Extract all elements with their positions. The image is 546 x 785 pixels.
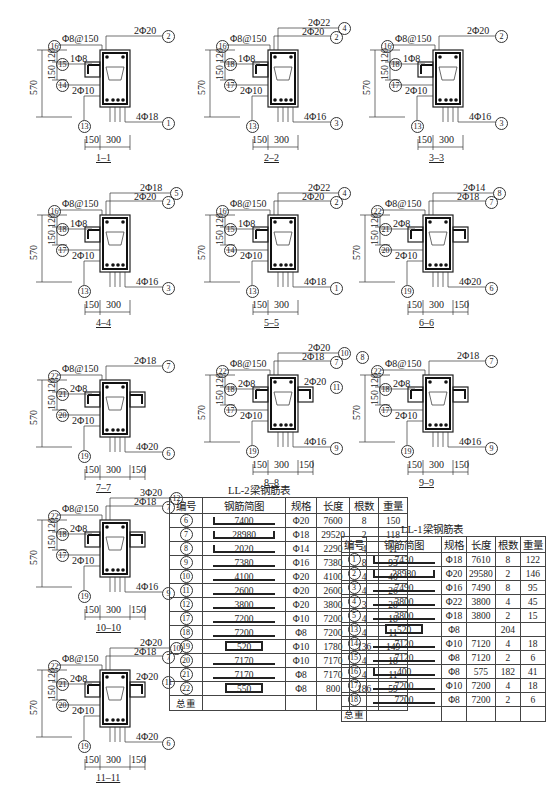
width-dimension: 300 xyxy=(106,300,121,310)
cell-count: 182 xyxy=(495,665,520,679)
section-8-8: 2Φ20102Φ18782Φ2011Φ8@150222Φ818172Φ10194… xyxy=(190,345,350,505)
cell-length: 7120 xyxy=(467,651,496,665)
bar-number: 2 xyxy=(348,567,361,580)
bar-number: 13 xyxy=(348,623,361,636)
bar-number-circle: 17 xyxy=(224,79,237,92)
side-bar-label: 2Φ8 xyxy=(393,379,410,389)
bar-number-circle: 14 xyxy=(224,244,237,257)
height-dimension: 570 xyxy=(28,410,39,425)
bottom-bar-label: 4Φ16 xyxy=(459,437,481,447)
side-bar-label: 2Φ8 xyxy=(70,674,87,684)
cell-spec: Φ20 xyxy=(286,570,317,584)
section-outline-graphic xyxy=(355,20,515,170)
width-dimension: 300 xyxy=(274,300,289,310)
section-outline-graphic xyxy=(345,185,505,335)
table-row: 147120Φ107120418 xyxy=(342,637,546,651)
bar-number-circle: 19 xyxy=(246,445,259,458)
side-bar-label: 2Φ8 xyxy=(238,379,255,389)
bar-number-circle: 6 xyxy=(485,282,498,295)
section-outline-graphic xyxy=(22,640,182,785)
dimension: 120 xyxy=(46,213,57,228)
dimension: 120 xyxy=(46,518,57,533)
cell-length: 7490 xyxy=(467,581,496,595)
cell-spec: Φ16 xyxy=(286,556,317,570)
dimension: 120 xyxy=(214,213,225,228)
rebar-shape-sketch: 2600 xyxy=(209,586,279,596)
flange-bar-label: 2Φ20 xyxy=(304,377,326,387)
dimension: 150 xyxy=(46,535,57,550)
height-dimension: 570 xyxy=(351,405,362,420)
bar-number: 14 xyxy=(348,637,361,650)
stirrup-label: Φ8@150 xyxy=(385,359,422,369)
section-9-9: 2Φ187Φ8@150222Φ818172Φ10194Φ169570150120… xyxy=(345,345,505,505)
cell-count: 4 xyxy=(495,637,520,651)
section-title: 9–9 xyxy=(419,477,434,488)
bar-number: 3 xyxy=(348,581,361,594)
cell-count: 2 xyxy=(495,567,520,581)
bar-number: 11 xyxy=(180,584,193,597)
top-bar-label: 2Φ18 xyxy=(457,192,479,202)
dimension: 150 xyxy=(214,390,225,405)
top-bar-label: 2Φ20 xyxy=(302,27,324,37)
bar-number-circle: 2 xyxy=(495,30,508,43)
side-bar-label: 1Φ8 xyxy=(403,54,420,64)
stirrup-label: Φ8@150 xyxy=(62,364,99,374)
bar-number-circle: 3 xyxy=(162,282,175,295)
bar-number-circle: 2 xyxy=(162,196,175,209)
bar-number: 7 xyxy=(180,528,193,541)
bar-number-circle: 17 xyxy=(379,404,392,417)
section-3-3: 2Φ202Φ8@150161Φ818172Φ10134Φ163570150120… xyxy=(355,20,515,180)
dimension: 150 xyxy=(379,65,390,80)
rebar-shape-sketch: 3800 xyxy=(369,597,439,607)
cell-length: 3800 xyxy=(467,595,496,609)
bar-number-circle: 1 xyxy=(330,282,343,295)
width-dimension: 150 xyxy=(131,605,146,615)
section-6-6: 2Φ1482Φ187Φ8@150222Φ821202Φ10194Φ2065701… xyxy=(345,185,505,345)
dimension: 120 xyxy=(369,373,380,388)
section-outline-graphic xyxy=(22,350,182,500)
cell-spec: Φ8 xyxy=(442,693,467,707)
bar-number: 12 xyxy=(180,598,193,611)
stirrup-label: Φ8@150 xyxy=(62,34,99,44)
column-header: 规格 xyxy=(442,537,467,553)
width-dimension: 150 xyxy=(299,460,314,470)
bottom-bar-label: 4Φ16 xyxy=(469,112,491,122)
width-dimension: 300 xyxy=(106,465,121,475)
section-1-1: 2Φ202Φ8@150161Φ815142Φ10134Φ181570150120… xyxy=(22,20,182,180)
side-bar-label: 1Φ8 xyxy=(238,219,255,229)
cell-spec: Φ10 xyxy=(442,679,467,693)
bar-number-circle: 18 xyxy=(56,223,69,236)
section-11-11: 2Φ20102Φ1872Φ2011Φ8@150222Φ821202Φ10194Φ… xyxy=(22,640,182,785)
width-dimension: 150 xyxy=(84,605,99,615)
width-dimension: 150 xyxy=(84,300,99,310)
bottom-bar-label: 4Φ20 xyxy=(136,732,158,742)
waist-bar-label: 2Φ10 xyxy=(240,86,262,96)
bar-number-circle: 18 xyxy=(56,528,69,541)
bar-number-circle: 1 xyxy=(162,117,175,130)
section-outline-graphic xyxy=(345,345,505,495)
bar-number-circle: 7 xyxy=(485,355,498,368)
section-outline-graphic xyxy=(22,490,182,640)
bar-number: 21 xyxy=(180,668,193,681)
cell-count: 8 xyxy=(495,581,520,595)
width-dimension: 150 xyxy=(84,755,99,765)
side-bar-label: 2Φ8 xyxy=(70,524,87,534)
ll1-table-title: LL-1梁钢筋表 xyxy=(401,521,463,536)
bar-number-circle: 13 xyxy=(78,285,91,298)
bar-number: 19 xyxy=(180,640,193,653)
table-row: 53800Φ183800215 xyxy=(342,609,546,623)
bar-number-circle: 18 xyxy=(224,383,237,396)
bar-number-circle: 17 xyxy=(389,79,402,92)
height-dimension: 570 xyxy=(28,80,39,95)
top-bar-label: 2Φ18 xyxy=(134,497,156,507)
ll2-table-title: LL-2梁钢筋表 xyxy=(228,482,290,497)
bar-number: 8 xyxy=(180,542,193,555)
table-row: 13520Φ8204 xyxy=(342,623,546,637)
bar-number: 22 xyxy=(180,682,193,695)
cell-weight: 122 xyxy=(520,553,545,567)
table-row: 17430Φ1876108122 xyxy=(342,553,546,567)
section-2-2: 2Φ2242Φ202Φ8@150161Φ818172Φ10134Φ1635701… xyxy=(190,20,350,180)
cell-spec: Φ18 xyxy=(442,553,467,567)
bar-number-circle: 11 xyxy=(330,381,343,394)
cell-count: 2 xyxy=(495,651,520,665)
